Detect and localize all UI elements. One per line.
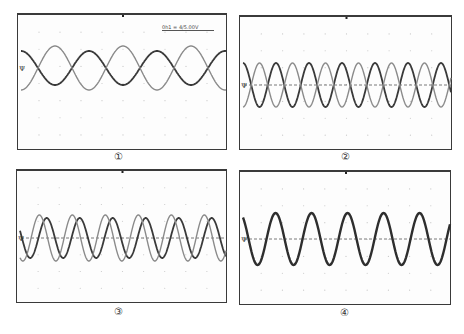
panel-caption-4: ④	[340, 307, 349, 318]
voltage-readout: 0h1 = 4/5.00V	[162, 24, 214, 31]
channel-marker-icon: Ψ	[18, 235, 24, 243]
waveform-plot: Ψ	[17, 171, 228, 305]
oscilloscope-panel-3: Ψ	[16, 169, 227, 303]
oscilloscope-panel-4: Ψ	[239, 170, 451, 305]
channel-marker-icon: Ψ	[241, 82, 247, 90]
channel-marker-icon: Ψ	[19, 65, 25, 73]
waveform-plot: Ψ	[18, 15, 228, 152]
trigger-marker-icon	[345, 172, 347, 174]
waveform-plot: Ψ	[240, 17, 453, 152]
waveform-plot: Ψ	[240, 172, 452, 307]
panel-caption-2: ②	[341, 151, 350, 162]
trigger-marker-icon	[122, 171, 124, 173]
panel-caption-3: ③	[114, 306, 123, 317]
waveform-trace-a	[21, 51, 226, 85]
trigger-marker-icon	[346, 17, 348, 19]
panel-caption-1: ①	[114, 151, 123, 162]
trigger-marker-icon	[122, 15, 124, 17]
oscilloscope-panel-1: Ψ0h1 = 4/5.00V	[17, 13, 227, 150]
channel-marker-icon: Ψ	[241, 236, 247, 244]
oscilloscope-panel-2: Ψ	[239, 15, 452, 150]
